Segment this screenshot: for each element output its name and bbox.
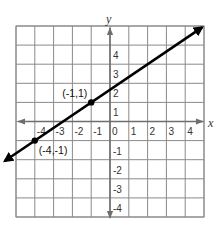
x-tick-label: -1 (93, 126, 102, 137)
x-tick-label: 0 (112, 126, 118, 137)
tick-labels: -4-3-2-1012344321-1-2-3-4 (37, 50, 193, 214)
y-tick-label: 4 (113, 50, 119, 61)
y-tick-label: 3 (113, 69, 119, 80)
x-tick-label: 3 (168, 126, 174, 137)
data-point (32, 137, 38, 143)
y-tick-label: -3 (113, 184, 122, 195)
y-tick-label: -4 (113, 203, 122, 214)
y-tick-label: 2 (113, 88, 119, 99)
data-point (88, 99, 94, 105)
x-tick-label: 1 (131, 126, 137, 137)
y-tick-label: -2 (113, 165, 122, 176)
axes (18, 28, 203, 218)
y-axis-label: y (105, 12, 112, 26)
coordinate-plane: -4-3-2-1012344321-1-2-3-4 (-4,-1)(-1,1) … (0, 0, 224, 227)
y-tick-label: -1 (113, 146, 122, 157)
x-tick-label: 4 (187, 126, 193, 137)
point-label: (-1,1) (62, 87, 87, 99)
point-label: (-4,-1) (39, 144, 68, 156)
y-tick-label: 1 (113, 107, 119, 118)
x-tick-label: 2 (150, 126, 156, 137)
x-tick-label: -2 (74, 126, 83, 137)
x-axis-label: x (207, 116, 214, 130)
